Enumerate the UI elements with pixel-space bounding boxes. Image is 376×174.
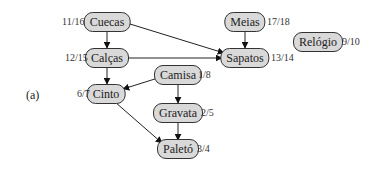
node-calcas: Calças [85, 48, 129, 68]
time-cuecas: 11/16 [62, 16, 84, 28]
time-relogio: 9/10 [342, 36, 360, 48]
node-gravata: Gravata [153, 103, 203, 123]
time-meias: 17/18 [267, 16, 290, 28]
edge-camisa-cinto [123, 78, 158, 89]
node-relogio: Relógio [293, 32, 343, 52]
node-sapatos: Sapatos [220, 48, 269, 68]
time-camisa: 1/8 [198, 69, 211, 81]
time-gravata: 2/5 [201, 107, 214, 119]
figure-label: (a) [26, 88, 39, 103]
node-meias: Meias [224, 12, 265, 32]
node-camisa: Camisa [154, 65, 202, 85]
time-paleto: 3/4 [197, 143, 210, 155]
time-cinto: 6/7 [77, 88, 90, 100]
time-sapatos: 13/14 [271, 52, 294, 64]
time-calcas: 12/15 [65, 52, 88, 64]
node-cuecas: Cuecas [84, 12, 131, 32]
node-paleto: Paletó [157, 139, 199, 159]
node-cinto: Cinto [87, 84, 126, 104]
edge-cuecas-sapatos [130, 24, 224, 53]
